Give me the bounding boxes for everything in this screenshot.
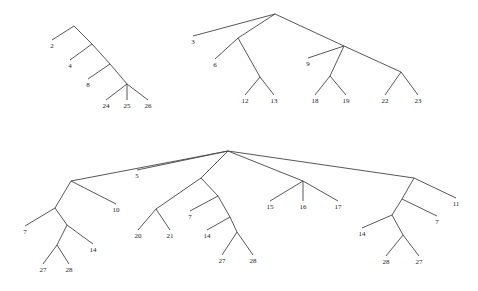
leaf-label: 21 xyxy=(167,232,175,240)
leaf-label: 23 xyxy=(415,97,423,105)
leaf-label: 27 xyxy=(219,257,227,265)
leaf-label: 28 xyxy=(383,258,391,266)
tree-edge xyxy=(330,46,344,76)
leaf-label: 14 xyxy=(90,246,98,254)
tree-edge xyxy=(228,151,414,178)
tree-edge xyxy=(402,199,437,216)
tree-edge xyxy=(344,46,401,72)
tree-edge xyxy=(315,76,330,95)
tree-edge xyxy=(57,225,67,245)
leaf-label: 17 xyxy=(335,203,343,211)
leaf-label: 14 xyxy=(204,232,212,240)
tree-edge xyxy=(260,77,274,95)
leaf-label: 18 xyxy=(312,97,320,105)
tree-edge xyxy=(330,76,346,95)
leaf-label: 10 xyxy=(113,206,121,214)
tree-edge xyxy=(106,84,127,100)
leaf-label: 27 xyxy=(40,266,48,274)
leaf-label: 5 xyxy=(135,172,139,180)
leaf-label: 28 xyxy=(66,266,74,274)
tree-edge xyxy=(245,77,260,95)
tree-edge xyxy=(230,217,237,232)
tree-edge xyxy=(401,72,418,95)
leaf-label: 24 xyxy=(103,102,111,110)
tree-edge xyxy=(386,235,403,256)
tree-3: 571014272820217142728151617117142827 xyxy=(23,151,460,274)
tree-edge xyxy=(385,72,401,95)
leaf-label: 9 xyxy=(306,60,310,68)
tree-edge xyxy=(402,178,414,199)
tree-edge xyxy=(127,84,148,100)
tree-edge xyxy=(207,217,230,230)
tree-edge xyxy=(156,178,201,209)
leaf-label: 22 xyxy=(382,97,390,105)
tree-edge xyxy=(70,44,92,60)
tree-2: 361213918192223 xyxy=(191,14,422,105)
leaf-label: 13 xyxy=(271,97,279,105)
tree-edge xyxy=(392,215,403,235)
tree-edge xyxy=(52,26,74,40)
tree-1: 248242526 xyxy=(50,26,152,110)
tree-edge xyxy=(92,44,110,64)
tree-edge xyxy=(215,38,238,59)
tree-edge xyxy=(25,208,55,226)
leaf-label: 20 xyxy=(135,232,143,240)
leaf-label: 8 xyxy=(86,81,90,89)
tree-edge xyxy=(57,245,69,264)
leaf-label: 28 xyxy=(250,257,258,265)
tree-edge xyxy=(237,232,253,255)
tree-edge xyxy=(55,181,71,208)
tree-edge xyxy=(308,46,344,58)
leaf-label: 25 xyxy=(124,102,132,110)
tree-edge xyxy=(238,38,260,77)
tree-edge xyxy=(275,14,344,46)
tree-edge xyxy=(414,178,456,198)
leaf-label: 6 xyxy=(213,61,217,69)
leaf-label: 7 xyxy=(23,228,27,236)
leaf-label: 11 xyxy=(453,200,460,208)
tree-edge xyxy=(392,199,402,215)
tree-edge xyxy=(137,151,228,170)
tree-edge xyxy=(222,232,237,255)
leaf-label: 12 xyxy=(242,97,250,105)
leaf-label: 26 xyxy=(145,102,153,110)
tree-edge xyxy=(193,14,275,36)
tree-edge xyxy=(156,209,170,230)
tree-edge xyxy=(67,225,93,244)
tree-edge xyxy=(201,178,218,196)
leaf-label: 7 xyxy=(188,213,192,221)
leaf-label: 14 xyxy=(359,230,367,238)
leaf-label: 4 xyxy=(68,62,72,70)
leaf-label: 27 xyxy=(416,258,424,266)
leaf-label: 19 xyxy=(343,97,351,105)
tree-edge xyxy=(303,181,338,201)
tree-edge xyxy=(74,26,92,44)
tree-edge xyxy=(71,181,116,204)
tree-edge xyxy=(138,209,156,230)
tree-diagram-canvas: 248242526 361213918192223 57101427282021… xyxy=(0,0,478,291)
tree-edge xyxy=(270,181,303,201)
leaf-label: 16 xyxy=(300,203,308,211)
leaf-label: 3 xyxy=(191,38,195,46)
tree-edge xyxy=(403,235,419,256)
tree-edge xyxy=(43,245,57,264)
tree-edge xyxy=(218,196,230,217)
tree-edge xyxy=(362,215,392,228)
tree-edge xyxy=(55,208,67,225)
leaf-label: 15 xyxy=(267,203,275,211)
tree-edge xyxy=(190,196,218,211)
leaf-label: 7 xyxy=(435,218,439,226)
tree-edge xyxy=(88,64,110,79)
leaf-label: 2 xyxy=(50,42,54,50)
tree-edge xyxy=(110,64,127,84)
tree-edge xyxy=(228,151,303,181)
tree-edge xyxy=(238,14,275,38)
